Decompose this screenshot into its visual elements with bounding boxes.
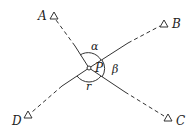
station-c-triangle-icon bbox=[164, 114, 172, 121]
label-b: B bbox=[171, 17, 181, 31]
angle-label-gamma: r bbox=[86, 80, 92, 93]
line-pd-dashed bbox=[32, 86, 62, 112]
point-p-marker bbox=[87, 66, 91, 70]
label-d: D bbox=[11, 114, 22, 128]
angle-label-beta: β bbox=[111, 63, 118, 76]
diagram-svg: A B C D P α β r bbox=[0, 0, 196, 135]
angle-label-alpha: α bbox=[91, 40, 99, 53]
line-pd-solid bbox=[62, 68, 89, 86]
resection-diagram: A B C D P α β r bbox=[0, 0, 196, 135]
line-pa-dashed bbox=[56, 20, 75, 46]
line-pb-dashed bbox=[128, 26, 160, 43]
station-b-triangle-icon bbox=[160, 20, 168, 27]
label-c: C bbox=[176, 114, 185, 128]
station-a-triangle-icon bbox=[50, 12, 58, 19]
station-d-triangle-icon bbox=[24, 111, 32, 118]
line-pc-dashed bbox=[125, 92, 164, 116]
line-pa-solid bbox=[75, 46, 89, 68]
label-p: P bbox=[94, 61, 104, 75]
label-a: A bbox=[37, 9, 47, 23]
